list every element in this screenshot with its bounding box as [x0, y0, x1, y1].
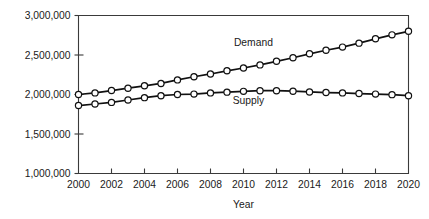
data-point-supply-2000 — [75, 102, 81, 108]
data-point-demand-2017 — [356, 40, 362, 46]
data-point-demand-2014 — [306, 51, 312, 57]
x-tick-label: 2002 — [100, 179, 123, 190]
x-tick-label: 2012 — [265, 179, 288, 190]
data-point-demand-2005 — [158, 80, 164, 86]
data-point-demand-2007 — [191, 74, 197, 80]
data-point-demand-2004 — [141, 83, 147, 89]
y-tick-label: 3,000,000 — [25, 10, 71, 21]
data-point-supply-2013 — [290, 88, 296, 94]
data-point-demand-2013 — [290, 55, 296, 61]
data-point-supply-2014 — [306, 89, 312, 95]
data-point-demand-2006 — [174, 77, 180, 83]
data-point-supply-2016 — [339, 90, 345, 96]
x-tick-label: 2000 — [67, 179, 90, 190]
series-label-demand: Demand — [234, 37, 273, 48]
series-label-supply: Supply — [233, 95, 265, 106]
data-point-supply-2001 — [92, 101, 98, 107]
data-point-supply-2004 — [141, 95, 147, 101]
series-annotation-labels: DemandSupply — [233, 37, 273, 106]
x-tick-label: 2004 — [133, 179, 156, 190]
data-point-demand-2016 — [339, 44, 345, 50]
data-point-supply-2019 — [389, 92, 395, 98]
data-point-supply-2005 — [158, 93, 164, 99]
data-point-supply-2015 — [323, 89, 329, 95]
data-point-demand-2000 — [75, 91, 81, 97]
x-tick-label: 2010 — [232, 179, 255, 190]
data-point-demand-2015 — [323, 47, 329, 53]
data-point-demand-2012 — [273, 58, 279, 64]
data-point-supply-2003 — [125, 97, 131, 103]
data-point-demand-2008 — [207, 71, 213, 77]
data-point-demand-2009 — [224, 68, 230, 74]
data-point-supply-2017 — [356, 90, 362, 96]
x-axis-tick-labels: 2000200220042006200820102012201420162018… — [67, 179, 420, 190]
y-axis-tick-labels: 1,000,0001,500,0002,000,0002,500,0003,00… — [25, 10, 71, 179]
data-point-supply-2009 — [224, 89, 230, 95]
x-tick-label: 2018 — [364, 179, 387, 190]
chart-canvas: 1,000,0001,500,0002,000,0002,500,0003,00… — [0, 0, 429, 219]
data-point-demand-2018 — [372, 36, 378, 42]
x-tick-label: 2008 — [199, 179, 222, 190]
data-point-demand-2001 — [92, 90, 98, 96]
data-point-supply-2011 — [257, 88, 263, 94]
data-point-demand-2010 — [240, 65, 246, 71]
data-point-demand-2011 — [257, 62, 263, 68]
x-tick-label: 2014 — [298, 179, 321, 190]
data-point-supply-2008 — [207, 90, 213, 96]
data-point-supply-2007 — [191, 91, 197, 97]
data-point-demand-2003 — [125, 85, 131, 91]
data-point-supply-2010 — [240, 88, 246, 94]
data-point-supply-2006 — [174, 91, 180, 97]
data-point-supply-2018 — [372, 91, 378, 97]
x-axis-title: Year — [233, 199, 254, 210]
y-tick-label: 1,500,000 — [25, 129, 71, 140]
data-point-supply-2012 — [273, 88, 279, 94]
y-tick-label: 1,000,000 — [25, 168, 71, 179]
x-axis-title-group: Year — [233, 199, 254, 210]
data-point-supply-2002 — [108, 99, 114, 105]
x-axis-ticks — [112, 169, 376, 174]
x-tick-label: 2016 — [331, 179, 354, 190]
data-point-demand-2020 — [405, 28, 411, 34]
x-tick-label: 2020 — [397, 179, 420, 190]
data-point-demand-2002 — [108, 87, 114, 93]
data-point-supply-2020 — [405, 93, 411, 99]
y-tick-label: 2,000,000 — [25, 89, 71, 100]
supply-demand-chart: 1,000,0001,500,0002,000,0002,500,0003,00… — [0, 0, 429, 219]
x-tick-label: 2006 — [166, 179, 189, 190]
data-point-demand-2019 — [389, 32, 395, 38]
y-tick-label: 2,500,000 — [25, 50, 71, 61]
